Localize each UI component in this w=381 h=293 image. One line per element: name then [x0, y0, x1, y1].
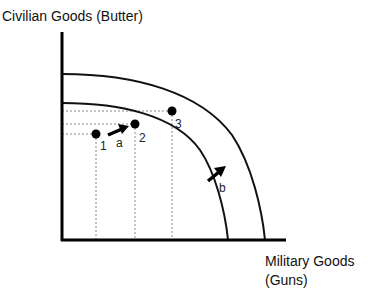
arrow-a-icon: [108, 124, 129, 135]
arrow-b-label: b: [219, 181, 226, 195]
point-2: [131, 120, 140, 129]
ppf-diagram: [0, 0, 381, 293]
point-1-label: 1: [100, 139, 107, 153]
point-1: [92, 130, 101, 139]
point-3-label: 3: [175, 117, 182, 131]
outer-ppf-curve: [62, 74, 265, 240]
point-2-label: 2: [139, 131, 146, 145]
point-3: [168, 107, 177, 116]
arrow-a-label: a: [116, 136, 123, 150]
